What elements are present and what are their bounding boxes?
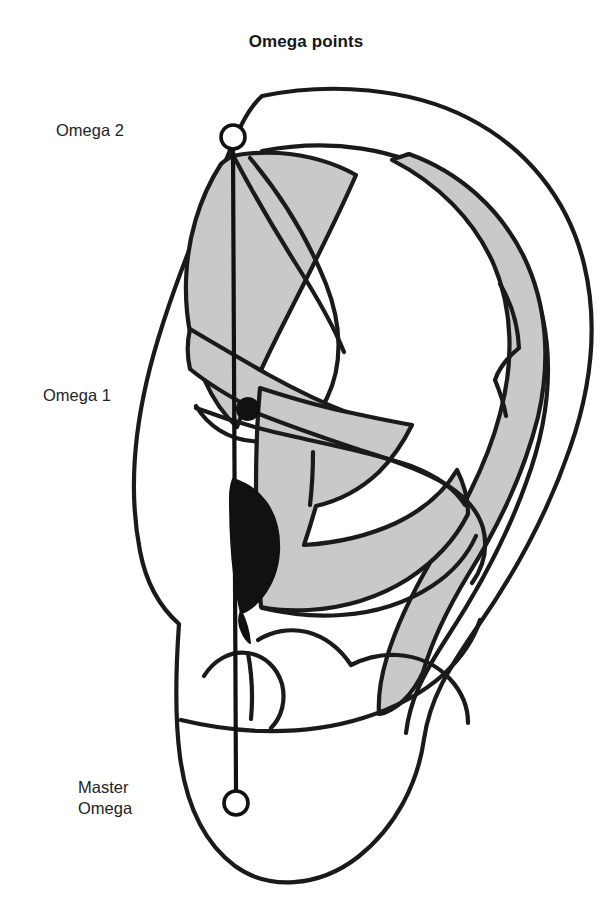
omega1-marker-filled-circle-icon[interactable]: [237, 398, 259, 420]
ear-diagram-figure: Omega points: [0, 0, 612, 907]
omega-reference-line: [233, 149, 236, 791]
master-omega-marker-open-circle-icon[interactable]: [224, 791, 248, 815]
omega2-label: Omega 2: [56, 120, 124, 141]
omega2-marker-open-circle-icon[interactable]: [221, 125, 245, 149]
omega1-label: Omega 1: [43, 385, 111, 406]
master-omega-label: Master Omega: [78, 777, 132, 819]
figure-title: Omega points: [0, 32, 612, 52]
